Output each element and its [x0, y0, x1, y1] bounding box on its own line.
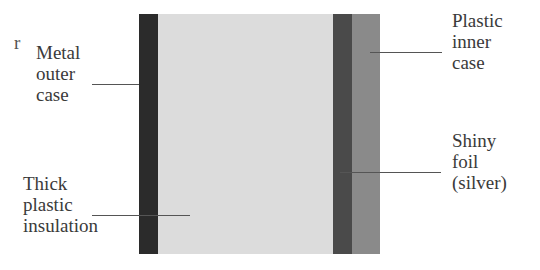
cropped-text-fragment: r [14, 32, 24, 54]
leader-line-shiny-foil [340, 172, 441, 173]
label-metal-outer-case: Metal outer case [36, 42, 80, 105]
leader-line-metal-outer-case [92, 84, 139, 85]
label-thick-plastic-insulation: Thick plastic insulation [23, 173, 98, 236]
leader-line-thick-plastic-insulation [92, 215, 190, 216]
layer-shiny-foil [333, 14, 352, 254]
label-plastic-inner-case: Plastic inner case [452, 10, 503, 73]
label-shiny-foil: Shiny foil (silver) [452, 130, 507, 193]
vacuum-flask-wall-diagram: r Metal outer case Thick plastic insulat… [0, 0, 540, 270]
layer-metal-outer-case [139, 14, 158, 254]
layer-plastic-inner-case [352, 14, 380, 254]
leader-line-plastic-inner-case [370, 52, 442, 53]
layer-thick-plastic-insulation [158, 14, 333, 254]
